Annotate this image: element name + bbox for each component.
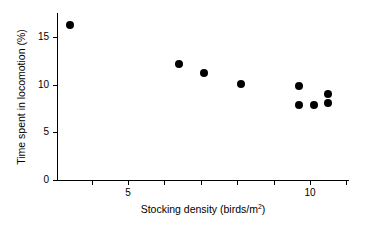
x-tick-4 (92, 181, 93, 185)
x-tick-label-5: 5 (125, 188, 131, 198)
data-point (324, 99, 332, 107)
data-point (200, 69, 208, 77)
data-point (66, 21, 74, 29)
x-tick-label-10: 10 (304, 188, 315, 198)
y-tick-label-15: 15 (38, 32, 53, 42)
y-tick-label-0: 0 (43, 175, 53, 185)
data-point (295, 82, 303, 90)
x-tick-8 (237, 181, 238, 185)
data-point (175, 60, 183, 68)
data-point (237, 80, 245, 88)
y-tick-5 (53, 132, 57, 133)
plot-area: 051015 510 (0, 0, 375, 225)
x-axis-title: Stocking density (birds/m2) (57, 203, 349, 215)
x-tick-9 (274, 181, 275, 185)
x-axis-title-base: Stocking density (birds/m (141, 203, 258, 215)
x-tick-11 (346, 181, 347, 185)
data-point (324, 90, 332, 98)
y-axis-line (57, 13, 58, 181)
y-tick-0 (53, 180, 57, 181)
scatter-plot-figure: 051015 510 Stocking density (birds/m2) T… (0, 0, 375, 225)
y-tick-label-10: 10 (38, 80, 53, 90)
x-axis-line (57, 180, 349, 181)
data-point (310, 101, 318, 109)
x-tick-5 (128, 181, 129, 185)
x-tick-6 (164, 181, 165, 185)
y-tick-10 (53, 85, 57, 86)
y-tick-label-5: 5 (43, 127, 53, 137)
data-point (295, 101, 303, 109)
x-axis-title-tail: ) (262, 203, 266, 215)
y-axis-title: Time spent in locomotion (%) (14, 13, 28, 181)
x-tick-7 (201, 181, 202, 185)
x-tick-10 (310, 181, 311, 185)
y-tick-15 (53, 37, 57, 38)
